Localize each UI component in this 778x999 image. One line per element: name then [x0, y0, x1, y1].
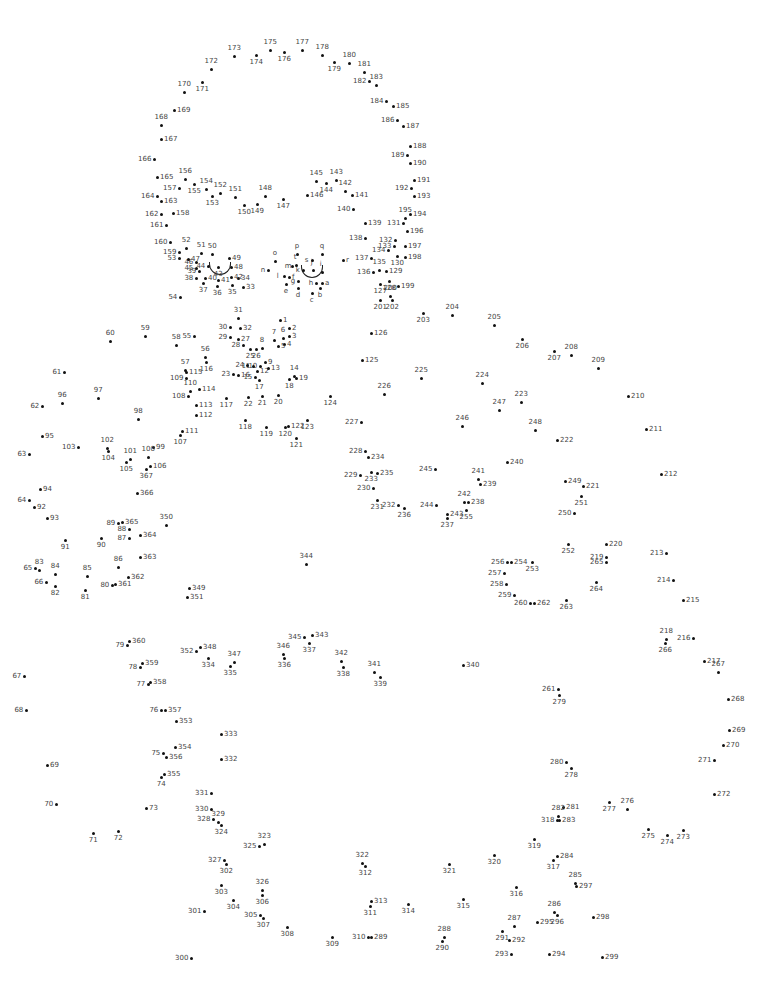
puzzle-dot: [249, 348, 252, 351]
dot-label: 188: [413, 142, 426, 150]
dot-label: 153: [206, 199, 219, 207]
puzzle-dot: [465, 509, 468, 512]
dot-label: 151: [229, 185, 242, 193]
dot-label: 47: [191, 255, 200, 263]
dot-label: 226: [378, 382, 391, 390]
puzzle-dot: [404, 256, 407, 259]
dot-label: 88: [117, 525, 126, 533]
puzzle-dot: [582, 485, 585, 488]
puzzle-dot: [160, 776, 163, 779]
dot-label: n: [261, 266, 265, 274]
dot-label: 328: [197, 815, 210, 823]
puzzle-dot: [128, 537, 131, 540]
dot-label: 247: [493, 398, 506, 406]
puzzle-dot: [370, 332, 373, 335]
puzzle-dot: [211, 253, 214, 256]
puzzle-dot: [61, 402, 64, 405]
puzzle-dot: [46, 764, 49, 767]
puzzle-dot: [156, 176, 159, 179]
puzzle-dot: [312, 269, 315, 272]
puzzle-dot: [344, 190, 347, 193]
puzzle-dot: [506, 561, 509, 564]
dot-label: 211: [649, 425, 662, 433]
puzzle-dot: [331, 936, 334, 939]
dot-label: h: [309, 279, 313, 287]
puzzle-dot: [165, 756, 168, 759]
puzzle-dot: [107, 450, 110, 453]
dot-label: 204: [446, 303, 459, 311]
puzzle-dot: [295, 377, 298, 380]
puzzle-dot: [195, 650, 198, 653]
puzzle-dot: [342, 259, 345, 262]
puzzle-dot: [385, 100, 388, 103]
dot-label: 221: [586, 482, 599, 490]
puzzle-dot: [536, 921, 539, 924]
dot-label: 125: [365, 356, 378, 364]
puzzle-dot: [33, 506, 36, 509]
dot-label: 117: [220, 401, 233, 409]
dot-label: 131: [387, 219, 400, 227]
dot-label: 177: [296, 38, 309, 46]
dot-label: 365: [125, 518, 138, 526]
puzzle-dot: [229, 336, 232, 339]
dot-label: r: [346, 256, 349, 264]
puzzle-dot: [375, 84, 378, 87]
dot-label: 149: [251, 207, 264, 215]
puzzle-dot: [556, 914, 559, 917]
puzzle-dot: [145, 807, 148, 810]
puzzle-dot: [364, 450, 367, 453]
dot-label: 312: [359, 869, 372, 877]
puzzle-dot: [162, 752, 165, 755]
dot-label: 65: [23, 564, 32, 572]
puzzle-dot: [174, 746, 177, 749]
puzzle-dot: [552, 859, 555, 862]
dot-label: 363: [143, 553, 156, 561]
puzzle-dot: [728, 729, 731, 732]
dot-label: 322: [356, 851, 369, 859]
puzzle-dot: [467, 501, 470, 504]
dot-label: 200: [384, 284, 397, 292]
dot-label: 361: [118, 580, 131, 588]
puzzle-dot: [175, 720, 178, 723]
dot-label: 79: [115, 641, 124, 649]
dot-label: 76: [149, 706, 158, 714]
puzzle-dot: [463, 501, 466, 504]
dot-label: 238: [471, 498, 484, 506]
puzzle-dot: [233, 661, 236, 664]
puzzle-dot: [283, 275, 286, 278]
dot-label: 172: [205, 57, 218, 65]
dot-label: 71: [89, 836, 98, 844]
dot-label: 347: [228, 650, 241, 658]
dot-label: e: [284, 287, 288, 295]
dot-label: 14: [290, 364, 299, 372]
dot-label: 334: [202, 661, 215, 669]
puzzle-dot: [195, 267, 198, 270]
dot-label: 110: [184, 379, 197, 387]
dot-label: 218: [660, 627, 673, 635]
puzzle-dot: [201, 81, 204, 84]
dot-label: t: [294, 253, 297, 261]
dot-label: 244: [420, 501, 433, 509]
puzzle-dot: [210, 68, 213, 71]
dot-label: 145: [310, 169, 323, 177]
dot-label: 311: [364, 909, 377, 917]
puzzle-dot: [136, 492, 139, 495]
dot-label: 272: [717, 790, 730, 798]
dot-label: 330: [195, 805, 208, 813]
puzzle-dot: [262, 917, 265, 920]
puzzle-dot: [45, 581, 48, 584]
dot-label: 183: [370, 73, 383, 81]
dot-label: 289: [374, 933, 387, 941]
puzzle-dot: [178, 251, 181, 254]
puzzle-dot: [626, 808, 629, 811]
puzzle-dot: [397, 285, 400, 288]
dot-label: 279: [553, 698, 566, 706]
dot-label: 155: [188, 187, 201, 195]
dot-label: 28: [231, 341, 240, 349]
dot-label: 21: [258, 399, 267, 407]
dot-label: 196: [410, 227, 423, 235]
puzzle-dot: [160, 138, 163, 141]
puzzle-dot: [264, 361, 267, 364]
puzzle-dot: [28, 453, 31, 456]
puzzle-dot: [217, 266, 220, 269]
